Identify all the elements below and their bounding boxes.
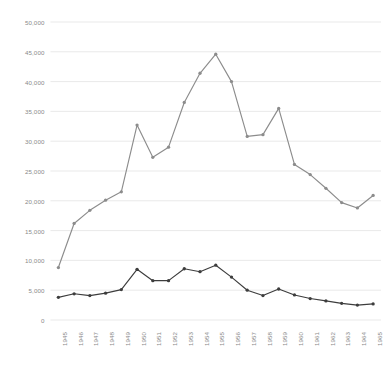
y-axis-tick-label: 35,000 — [6, 108, 45, 115]
series-line — [58, 54, 373, 267]
data-point — [309, 173, 312, 176]
data-point — [277, 287, 280, 290]
data-point — [230, 80, 233, 83]
data-point — [120, 190, 123, 193]
line-chart: 05,00010,00015,00020,00025,00030,00035,0… — [0, 0, 392, 367]
data-point — [183, 267, 186, 270]
y-axis-tick-label: 15,000 — [6, 227, 45, 234]
x-axis-tick-label: 1951 — [155, 332, 162, 346]
series-lower-series — [57, 264, 375, 307]
data-point — [277, 107, 280, 110]
x-axis-tick-label: 1957 — [250, 332, 257, 346]
data-point — [261, 133, 264, 136]
data-point — [57, 296, 60, 299]
data-point — [340, 302, 343, 305]
data-point — [72, 222, 75, 225]
data-point — [230, 275, 233, 278]
data-point — [151, 279, 154, 282]
data-point — [135, 268, 138, 271]
data-point — [293, 163, 296, 166]
data-point — [104, 292, 107, 295]
y-axis-tick-label: 40,000 — [6, 78, 45, 85]
x-axis-tick-label: 1948 — [108, 332, 115, 346]
data-point — [356, 206, 359, 209]
y-axis-tick-label: 0 — [6, 317, 45, 324]
x-axis-tick-label: 1958 — [266, 332, 273, 346]
data-point — [57, 266, 60, 269]
y-axis-tick-label: 45,000 — [6, 48, 45, 55]
data-point — [214, 264, 217, 267]
data-point — [246, 135, 249, 138]
data-point — [151, 156, 154, 159]
chart-plot-area — [0, 0, 392, 367]
y-axis-tick-label: 5,000 — [6, 287, 45, 294]
x-axis-tick-label: 1964 — [360, 332, 367, 346]
data-point — [293, 293, 296, 296]
series-layer — [57, 53, 375, 307]
data-point — [88, 294, 91, 297]
x-axis-tick-label: 1960 — [297, 332, 304, 346]
x-axis-tick-label: 1952 — [171, 332, 178, 346]
x-axis-tick-label: 1962 — [329, 332, 336, 346]
data-point — [371, 302, 374, 305]
data-point — [104, 199, 107, 202]
data-point — [88, 209, 91, 212]
x-axis-tick-label: 1950 — [140, 332, 147, 346]
data-point — [135, 123, 138, 126]
y-axis-tick-label: 50,000 — [6, 19, 45, 26]
x-axis-tick-label: 1947 — [92, 332, 99, 346]
x-axis-tick-label: 1959 — [281, 332, 288, 346]
data-point — [120, 288, 123, 291]
data-point — [309, 297, 312, 300]
x-axis-tick-label: 1946 — [77, 332, 84, 346]
gridlines — [51, 22, 382, 320]
data-point — [371, 194, 374, 197]
data-point — [167, 146, 170, 149]
data-point — [72, 292, 75, 295]
data-point — [198, 72, 201, 75]
y-axis-tick-label: 20,000 — [6, 197, 45, 204]
series-upper-series — [57, 53, 375, 270]
data-point — [261, 294, 264, 297]
y-axis-tick-label: 10,000 — [6, 257, 45, 264]
data-point — [198, 270, 201, 273]
y-axis-tick-label: 30,000 — [6, 138, 45, 145]
x-axis-tick-label: 1945 — [61, 332, 68, 346]
x-axis-tick-label: 1965 — [376, 332, 383, 346]
x-axis-tick-label: 1955 — [218, 332, 225, 346]
data-point — [324, 187, 327, 190]
x-axis-tick-label: 1953 — [187, 332, 194, 346]
data-point — [356, 303, 359, 306]
x-axis-tick-label: 1961 — [313, 332, 320, 346]
x-axis-tick-label: 1963 — [344, 332, 351, 346]
data-point — [214, 53, 217, 56]
x-axis-tick-label: 1949 — [124, 332, 131, 346]
y-axis-tick-label: 25,000 — [6, 168, 45, 175]
data-point — [324, 299, 327, 302]
data-point — [167, 279, 170, 282]
series-line — [58, 265, 373, 305]
data-point — [340, 201, 343, 204]
data-point — [246, 289, 249, 292]
data-point — [183, 101, 186, 104]
x-axis-tick-label: 1956 — [234, 332, 241, 346]
x-axis-tick-label: 1954 — [203, 332, 210, 346]
